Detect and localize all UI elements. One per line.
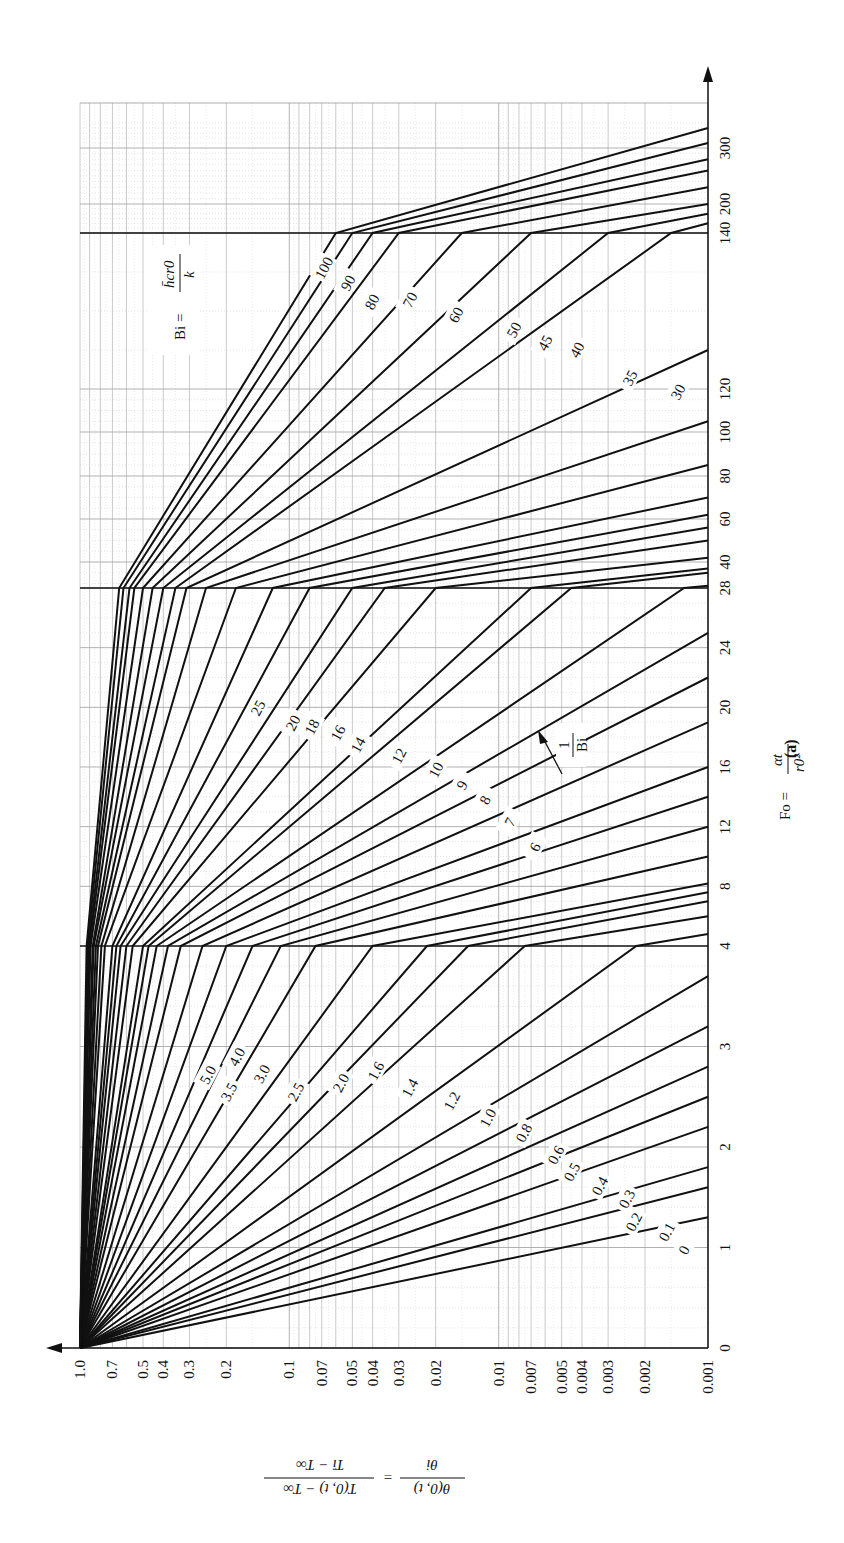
fo-tick-label: 24	[717, 640, 733, 656]
curve-50	[80, 204, 708, 1348]
fo-tick-label: 20	[717, 700, 733, 715]
theta-tick-label: 0.07	[314, 1360, 330, 1387]
fo-tick-label: 2	[717, 1143, 733, 1151]
theta-tick-label: 0.003	[600, 1360, 616, 1394]
curve-0.4	[80, 1097, 708, 1348]
curve-2.0	[80, 883, 708, 1348]
fo-tick-label: 200	[717, 193, 733, 216]
curve-0.8	[80, 976, 708, 1348]
fo-tick-label: 28	[717, 581, 733, 596]
fo-tick-label: 4	[717, 942, 733, 950]
curve-0.5	[80, 1067, 708, 1348]
fo-tick-label: 8	[717, 883, 733, 891]
curve-1.0	[80, 934, 708, 1348]
bi-label: Bi =	[172, 314, 188, 340]
svg-text:Ti − T∞: Ti − T∞	[296, 1457, 345, 1473]
fo-tick-label: 140	[717, 222, 733, 245]
curve-0.2	[80, 1167, 708, 1348]
svg-text:=: =	[384, 1469, 392, 1485]
curve-5.0	[80, 722, 708, 1348]
y-axis-title: θ(0, t)	[414, 1480, 451, 1497]
theta-tick-label: 0.05	[344, 1360, 360, 1386]
theta-tick-label: 0.007	[523, 1360, 539, 1394]
svg-text:θi: θi	[426, 1457, 438, 1473]
theta-tick-label: 0.7	[104, 1360, 120, 1379]
theta-tick-label: 0.3	[181, 1360, 197, 1379]
theta-tick-label: 0.02	[428, 1360, 444, 1386]
curve-4.0	[80, 767, 708, 1348]
fo-tick-label: 3	[717, 1043, 733, 1051]
fo-tick-label: 40	[717, 555, 733, 570]
heisler-chart: 01234812162024284060801001201402003001.0…	[0, 0, 844, 1543]
svg-text:h̄cr0: h̄cr0	[161, 260, 177, 288]
svg-text:Bi: Bi	[574, 738, 590, 752]
theta-tick-label: 0.03	[391, 1360, 407, 1386]
svg-text:k: k	[181, 271, 197, 278]
curve-45	[80, 214, 708, 1348]
theta-tick-label: 0.004	[574, 1360, 590, 1394]
fo-tick-label: 0	[717, 1344, 733, 1352]
fo-tick-label: 1	[717, 1244, 733, 1252]
curve-2.5	[80, 857, 708, 1349]
theta-tick-label: 0.001	[700, 1360, 716, 1394]
theta-tick-label: 1.0	[72, 1360, 88, 1379]
curve-16	[80, 528, 708, 1348]
fo-tick-label: 60	[717, 512, 733, 527]
theta-tick-label: 0.4	[155, 1360, 171, 1379]
theta-tick-label: 0.01	[491, 1360, 507, 1386]
fo-tick-label: 100	[717, 421, 733, 444]
curve-9	[80, 573, 708, 1348]
fo-tick-label: 12	[717, 819, 733, 834]
inverse-bi-label: 1	[556, 741, 572, 749]
fo-tick-label: 16	[717, 759, 733, 775]
fo-tick-label: 80	[717, 469, 733, 484]
curve-14	[80, 541, 708, 1349]
curve-20	[80, 498, 708, 1349]
theta-tick-label: 0.2	[218, 1360, 234, 1379]
curve-12	[80, 558, 708, 1348]
curve-0.1	[80, 1187, 708, 1348]
x-axis-title: Fo =	[777, 792, 793, 820]
theta-tick-label: 0.002	[637, 1360, 653, 1394]
theta-tick-label: 0.1	[281, 1360, 297, 1379]
curve-10	[80, 569, 708, 1349]
theta-tick-label: 0.04	[365, 1360, 381, 1387]
fo-tick-label: 300	[717, 137, 733, 160]
svg-text:T(0, t) − T∞: T(0, t) − T∞	[283, 1480, 357, 1497]
figure-label: (a)	[782, 739, 800, 758]
theta-tick-label: 0.005	[554, 1360, 570, 1394]
curve-7	[80, 633, 708, 1348]
fo-tick-label: 120	[717, 378, 733, 401]
theta-tick-label: 0.5	[135, 1360, 151, 1379]
